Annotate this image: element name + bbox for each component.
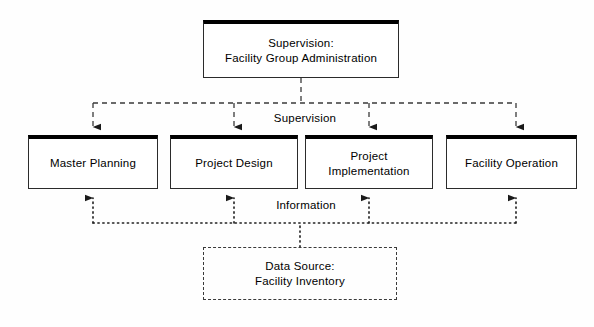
diagram-canvas: Supervision: Facility Group Administrati… — [0, 0, 594, 327]
edge-label-supervision: Supervision — [252, 112, 358, 124]
node-facility-operation: Facility Operation — [446, 135, 577, 189]
node-supervision: Supervision: Facility Group Administrati… — [203, 20, 399, 78]
node-project-design: Project Design — [170, 135, 298, 189]
node-master-planning: Master Planning — [28, 135, 158, 189]
edge-label-information: Information — [254, 199, 358, 211]
node-data-source: Data Source: Facility Inventory — [203, 247, 397, 300]
node-project-implementation: Project Implementation — [305, 135, 433, 189]
